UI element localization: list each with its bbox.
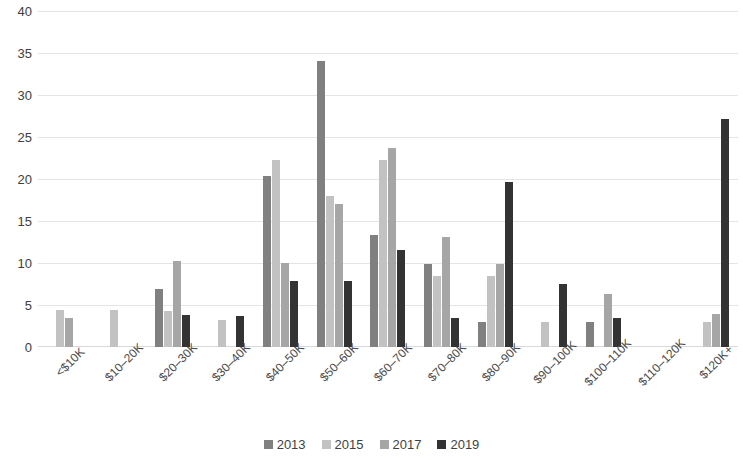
y-axis-tick-label: 10: [0, 257, 32, 270]
bar: [703, 322, 711, 347]
bar-group: [307, 11, 361, 347]
bar: [65, 318, 73, 347]
bar: [164, 311, 172, 347]
x-axis-tick-label: $70–80K: [426, 341, 468, 383]
x-axis-tick-label: $40–50K: [264, 341, 306, 383]
bar-group: [469, 11, 523, 347]
bar-group: [523, 11, 577, 347]
bar: [263, 176, 271, 347]
x-axis-label-cell: $60–70K: [361, 348, 415, 428]
bar-group: [146, 11, 200, 347]
bar: [326, 196, 334, 347]
bar-group: [200, 11, 254, 347]
bar: [290, 281, 298, 347]
x-axis-label-cell: $40–50K: [253, 348, 307, 428]
legend-swatch-icon: [322, 440, 331, 449]
legend-item[interactable]: 2017: [380, 438, 422, 451]
legend-label: 2017: [393, 438, 422, 451]
bar: [721, 119, 729, 347]
bar-group: [253, 11, 307, 347]
x-axis-label-cell: $50–60K: [307, 348, 361, 428]
bar: [559, 284, 567, 347]
x-axis-label-cell: $10–20K: [92, 348, 146, 428]
x-axis-tick-label: $50–60K: [318, 341, 360, 383]
y-axis-tick-label: 0: [0, 341, 32, 354]
y-axis-tick-label: 25: [0, 131, 32, 144]
x-axis-label-cell: $30–40K: [200, 348, 254, 428]
legend-swatch-icon: [437, 440, 446, 449]
bar: [541, 322, 549, 347]
bar: [424, 264, 432, 347]
bar-groups: [38, 11, 738, 347]
y-axis-tick-label: 15: [0, 215, 32, 228]
y-axis-tick-label: 20: [0, 173, 32, 186]
bar-group: [361, 11, 415, 347]
x-axis-tick-label: $10–20K: [103, 341, 145, 383]
bar: [335, 204, 343, 347]
legend-label: 2019: [450, 438, 479, 451]
y-axis-tick-label: 5: [0, 299, 32, 312]
x-axis-tick-label: $80–90K: [479, 341, 521, 383]
legend-label: 2015: [335, 438, 364, 451]
y-axis: 4035302520151050: [0, 0, 32, 358]
bar: [155, 289, 163, 347]
bar: [379, 160, 387, 347]
bar: [370, 235, 378, 347]
x-axis-labels: <$10K$10–20K$20–30K$30–40K$40–50K$50–60K…: [38, 348, 738, 428]
x-axis-tick-label: $120K+: [697, 343, 735, 381]
y-axis-tick-label: 30: [0, 89, 32, 102]
plot-area: [38, 11, 738, 347]
legend-item[interactable]: 2015: [322, 438, 364, 451]
bar: [173, 261, 181, 347]
bar: [487, 276, 495, 347]
x-axis-tick-label: $30–40K: [210, 341, 252, 383]
legend-swatch-icon: [380, 440, 389, 449]
bar: [56, 310, 64, 347]
y-axis-tick-label: 35: [0, 47, 32, 60]
bar-group: [630, 11, 684, 347]
bar: [218, 320, 226, 347]
bar: [281, 263, 289, 347]
bar: [496, 264, 504, 347]
bar: [505, 182, 513, 347]
bar: [586, 322, 594, 347]
bar-group: [415, 11, 469, 347]
bar-group: [576, 11, 630, 347]
x-axis-tick-label: $60–70K: [372, 341, 414, 383]
bar-group: [684, 11, 738, 347]
bar: [604, 294, 612, 347]
x-axis-tick-label: <$10K: [53, 346, 86, 379]
bar: [272, 160, 280, 347]
bar: [317, 61, 325, 347]
x-axis-label-cell: $110–120K: [630, 348, 684, 428]
x-axis-label-cell: $20–30K: [146, 348, 200, 428]
legend-item[interactable]: 2013: [264, 438, 306, 451]
legend-item[interactable]: 2019: [437, 438, 479, 451]
bar-chart: 4035302520151050 <$10K$10–20K$20–30K$30–…: [0, 0, 743, 460]
x-axis-label-cell: $80–90K: [469, 348, 523, 428]
bar: [397, 250, 405, 347]
y-axis-tick-label: 40: [0, 5, 32, 18]
bar: [110, 310, 118, 347]
bar-group: [92, 11, 146, 347]
x-axis-label-cell: $90–100K: [523, 348, 577, 428]
bar: [442, 237, 450, 347]
x-axis-tick-label: $20–30K: [156, 341, 198, 383]
legend-label: 2013: [277, 438, 306, 451]
x-axis-label-cell: $120K+: [684, 348, 738, 428]
x-axis-label-cell: $100–110K: [576, 348, 630, 428]
bar: [388, 148, 396, 347]
x-axis-label-cell: $70–80K: [415, 348, 469, 428]
chart-legend: 2013201520172019: [0, 438, 743, 451]
legend-swatch-icon: [264, 440, 273, 449]
bar: [478, 322, 486, 347]
x-axis-label-cell: <$10K: [38, 348, 92, 428]
bar: [712, 314, 720, 347]
bar: [433, 276, 441, 347]
bar-group: [38, 11, 92, 347]
bar: [344, 281, 352, 347]
